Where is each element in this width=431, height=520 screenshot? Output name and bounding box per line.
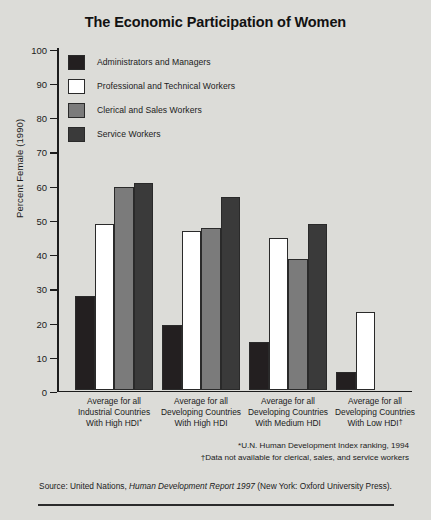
y-axis-title: Percent Female (1990) [14, 119, 25, 218]
bar-4-1[interactable] [336, 372, 356, 391]
legend-swatch-icon [68, 55, 85, 70]
legend-item-4[interactable]: Service Workers [68, 122, 308, 146]
y-tick-label: 70 [36, 147, 47, 158]
y-tick-mark [50, 324, 57, 325]
y-tick-mark [50, 50, 57, 51]
bar-2-3[interactable] [201, 228, 221, 391]
footnote-2: †Data not available for clerical, sales,… [201, 452, 409, 464]
x-axis-label-line: Average for all [315, 396, 431, 407]
y-tick-mark [50, 358, 57, 359]
bar-group-4 [336, 48, 414, 390]
source-note: Source: United Nations, Human Developmen… [0, 481, 431, 491]
y-tick-label: 90 [36, 78, 47, 89]
y-tick-label: 80 [36, 113, 47, 124]
legend-swatch-icon [68, 79, 85, 94]
legend-item-3[interactable]: Clerical and Sales Workers [68, 98, 308, 122]
y-tick-mark [50, 392, 57, 393]
y-tick-label: 0 [42, 387, 47, 398]
legend-item-1[interactable]: Administrators and Managers [68, 50, 308, 74]
x-axis-label-line: With Low HDI† [315, 418, 431, 429]
y-tick-mark [50, 152, 57, 153]
bottom-rule [38, 504, 394, 506]
y-tick-label: 60 [36, 181, 47, 192]
y-tick-mark [50, 221, 57, 222]
y-axis-line [57, 48, 59, 392]
page-title: The Economic Participation of Women [0, 14, 431, 30]
y-tick-label: 40 [36, 250, 47, 261]
bar-3-1[interactable] [249, 342, 269, 390]
source-suffix: (New York: Oxford University Press). [255, 481, 392, 491]
y-tick-mark [50, 187, 57, 188]
source-title: Human Development Report 1997 [129, 481, 255, 491]
y-tick-label: 100 [31, 44, 47, 55]
source-prefix: Source: United Nations, [39, 481, 129, 491]
y-tick-label: 10 [36, 352, 47, 363]
y-tick-mark [50, 118, 57, 119]
bar-3-3[interactable] [288, 259, 308, 391]
y-tick-mark [50, 84, 57, 85]
x-axis-label-4: Average for allDeveloping CountriesWith … [315, 396, 431, 430]
bar-1-3[interactable] [114, 187, 134, 391]
bar-2-1[interactable] [162, 325, 182, 390]
x-axis-line [57, 391, 412, 393]
legend-label: Administrators and Managers [97, 57, 211, 67]
legend-label: Service Workers [97, 129, 161, 139]
bar-1-1[interactable] [75, 296, 95, 390]
chart-figure: The Economic Participation of Women Perc… [0, 0, 431, 520]
legend: Administrators and ManagersProfessional … [68, 50, 308, 146]
legend-label: Professional and Technical Workers [97, 81, 235, 91]
bar-2-2[interactable] [182, 231, 202, 390]
bar-3-2[interactable] [269, 238, 289, 390]
bar-1-4[interactable] [134, 183, 154, 390]
bar-3-4[interactable] [308, 224, 328, 390]
bar-4-2[interactable] [356, 312, 376, 391]
legend-swatch-icon [68, 103, 85, 118]
y-tick-label: 30 [36, 284, 47, 295]
y-tick-label: 20 [36, 318, 47, 329]
footnotes: *U.N. Human Development Index ranking, 1… [201, 440, 409, 463]
x-axis-label-line: Developing Countries [315, 407, 431, 418]
bar-1-2[interactable] [95, 224, 115, 390]
legend-swatch-icon [68, 127, 85, 142]
legend-label: Clerical and Sales Workers [97, 105, 202, 115]
y-tick-mark [50, 289, 57, 290]
legend-item-2[interactable]: Professional and Technical Workers [68, 74, 308, 98]
y-tick-mark [50, 255, 57, 256]
y-tick-label: 50 [36, 215, 47, 226]
footnote-1: *U.N. Human Development Index ranking, 1… [201, 440, 409, 452]
bar-2-4[interactable] [221, 197, 241, 390]
